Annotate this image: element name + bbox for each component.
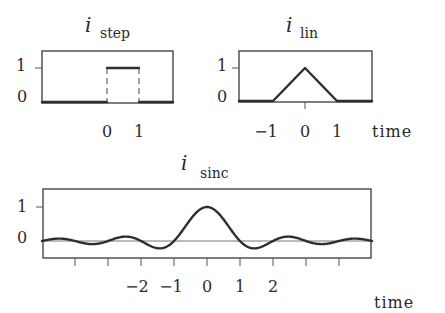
sinc-xtick-label-1: 1 [235, 277, 245, 296]
step-ytick-label-1: 1 [16, 56, 26, 75]
lin-xtick-label-neg1: −1 [254, 122, 278, 141]
sinc-panel: i sinc 1 0 −2 −1 0 1 2 time [17, 151, 414, 312]
lin-plot-frame [239, 51, 372, 102]
step-xtick-label-1: 1 [134, 122, 144, 141]
step-plot-frame [42, 51, 173, 103]
lin-panel: i lin 1 0 −1 0 1 time [217, 13, 412, 141]
lin-xtick-label-1: 1 [332, 122, 342, 141]
lin-ytick-label-0: 0 [217, 87, 227, 106]
step-ytick-label-0: 0 [17, 87, 27, 106]
lin-xlabel: time [372, 122, 412, 141]
lin-title-sub: lin [300, 25, 318, 41]
lin-curve [239, 68, 372, 101]
sinc-ytick-label-1: 1 [17, 197, 27, 216]
step-title-main: i [85, 13, 91, 37]
lin-ytick-label-1: 1 [217, 56, 227, 75]
sinc-ytick-label-0: 0 [17, 228, 27, 247]
sinc-xtick-label-0: 0 [202, 277, 212, 296]
lin-xtick-label-0: 0 [300, 122, 310, 141]
sinc-xticks [75, 258, 339, 266]
step-panel: i step 1 0 0 1 [16, 13, 173, 141]
sinc-curve [42, 207, 372, 248]
sinc-title-sub: sinc [200, 165, 229, 181]
step-title-sub: step [100, 25, 130, 41]
sinc-xtick-label-neg2: −2 [125, 277, 149, 296]
sinc-xlabel: time [374, 293, 414, 312]
sinc-title-main: i [181, 151, 187, 175]
sinc-plot-frame [43, 189, 371, 258]
figure-canvas: i step 1 0 0 1 i lin 1 0 −1 0 1 time i s… [0, 0, 445, 313]
step-xtick-label-0: 0 [102, 122, 112, 141]
sinc-xtick-label-2: 2 [268, 277, 278, 296]
sinc-xtick-label-neg1: −1 [159, 277, 183, 296]
lin-title-main: i [286, 13, 292, 37]
